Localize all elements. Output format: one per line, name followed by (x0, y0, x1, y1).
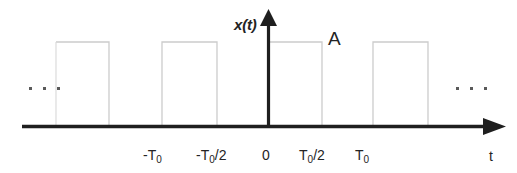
tick-label-minus-t0: -T0 (143, 148, 162, 162)
right-ellipsis (456, 87, 487, 90)
amplitude-label: A (328, 29, 341, 48)
x-axis-label: t (489, 149, 493, 163)
y-axis-label: x(t) (234, 17, 257, 32)
y-axis (260, 9, 277, 127)
tick-suffix: /2 (313, 147, 325, 163)
tick-subscript: 0 (308, 154, 314, 165)
tick-base: -T (196, 147, 209, 163)
ellipsis-dot (470, 87, 473, 90)
tick-base: T (355, 147, 364, 163)
waveform-canvas (0, 0, 517, 173)
pulse-rect-1 (56, 42, 109, 126)
tick-base: T (299, 147, 308, 163)
ellipsis-dot (57, 87, 60, 90)
tick-subscript: 0 (364, 154, 370, 165)
tick-base: -T (143, 147, 156, 163)
tick-label-t0-over-2: T0/2 (299, 148, 325, 162)
pulse-rect-2 (162, 42, 217, 126)
ellipsis-dot (484, 87, 487, 90)
tick-suffix: /2 (215, 147, 227, 163)
tick-label-zero: 0 (262, 148, 270, 162)
tick-label-t0: T0 (355, 148, 369, 162)
tick-subscript: 0 (156, 154, 162, 165)
pulse-train-figure: x(t) A t -T0 -T0/2 0 T0/2 T0 (0, 0, 517, 173)
tick-subscript: 0 (209, 154, 215, 165)
pulse-rect-3 (268, 42, 322, 126)
x-axis (22, 118, 506, 135)
tick-base: 0 (262, 147, 270, 163)
ellipsis-dot (456, 87, 459, 90)
ellipsis-dot (43, 87, 46, 90)
ellipsis-dot (29, 87, 32, 90)
tick-label-minus-t0-over-2: -T0/2 (196, 148, 226, 162)
pulse-rect-4 (373, 42, 428, 126)
left-ellipsis (29, 87, 60, 90)
